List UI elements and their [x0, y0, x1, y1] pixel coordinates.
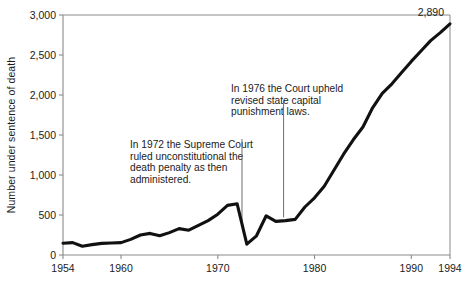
- x-axis-ticks: 195419601970198019901994: [51, 255, 462, 274]
- x-tick-label: 1954: [51, 262, 75, 274]
- annotation-line: In 1976 the Court upheld: [231, 83, 343, 94]
- data-line: [63, 24, 450, 246]
- y-tick-label: 1,000: [30, 169, 56, 181]
- y-tick-label: 2,500: [30, 49, 56, 61]
- x-tick-label: 1970: [206, 262, 230, 274]
- axis-layer: [63, 15, 450, 255]
- data-label-layer: 2,890: [418, 6, 444, 18]
- annotation-1976: In 1976 the Court upheldrevised state ca…: [231, 83, 343, 217]
- data-series-layer: [63, 24, 450, 246]
- y-axis-ticks: 05001,0001,5002,0002,5003,000: [30, 9, 63, 261]
- x-tick-label: 1980: [303, 262, 327, 274]
- y-tick-label: 2,000: [30, 89, 56, 101]
- y-tick-label: 0: [50, 249, 56, 261]
- data-point-label: 2,890: [418, 6, 444, 18]
- x-tick-label: 1990: [400, 262, 424, 274]
- chart-container: Number under sentence of death 05001,000…: [0, 0, 469, 289]
- annotation-line: punishment laws.: [231, 106, 310, 117]
- x-tick-label: 1994: [438, 262, 462, 274]
- annotation-line: administered.: [130, 174, 191, 185]
- annotation-line: death penalty as then: [130, 162, 227, 173]
- y-tick-label: 3,000: [30, 9, 56, 21]
- annotation-line: revised state capital: [231, 95, 321, 106]
- annotation-line: ruled unconstitutional the: [130, 151, 244, 162]
- annotation-1972: In 1972 the Supreme Courtruled unconstit…: [130, 139, 253, 224]
- line-chart-plot: 05001,0001,5002,0002,5003,000 1954196019…: [0, 0, 469, 289]
- y-tick-label: 500: [38, 209, 56, 221]
- y-tick-label: 1,500: [30, 129, 56, 141]
- annotation-line: In 1972 the Supreme Court: [130, 139, 253, 150]
- x-tick-label: 1960: [109, 262, 133, 274]
